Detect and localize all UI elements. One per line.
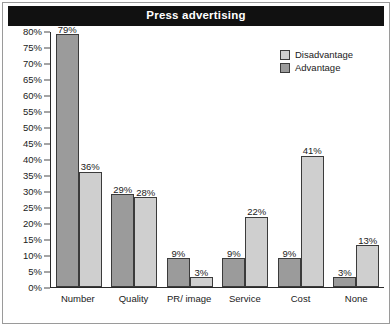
bar-value-label: 28% — [136, 188, 155, 198]
bar: 9% — [278, 258, 301, 287]
y-axis-tick-label: 15% — [23, 235, 42, 245]
legend-swatch-icon — [280, 63, 290, 73]
chart-legend: DisadvantageAdvantage — [280, 50, 353, 73]
bar: 28% — [134, 197, 157, 287]
y-axis-tick-label: 30% — [23, 187, 42, 197]
bar-value-label: 22% — [247, 207, 266, 217]
legend-swatch-icon — [280, 50, 290, 60]
y-axis-tick-label: 60% — [23, 91, 42, 101]
bar-value-label: 9% — [171, 249, 185, 259]
y-axis-tick-label: 35% — [23, 171, 42, 181]
y-axis-tick-label: 20% — [23, 219, 42, 229]
x-axis-label: Cost — [273, 290, 329, 308]
y-axis-tick-label: 55% — [23, 107, 42, 117]
y-axis-tick-label: 65% — [23, 75, 42, 85]
x-axis-label: Quality — [106, 290, 162, 308]
legend-label: Advantage — [295, 63, 340, 73]
bar-value-label: 9% — [282, 249, 296, 259]
y-axis-tick-label: 5% — [28, 267, 42, 277]
bar-value-label: 79% — [58, 25, 77, 35]
x-axis-label: Number — [50, 290, 106, 308]
legend-item[interactable]: Disadvantage — [280, 50, 353, 60]
y-axis-tick-label: 45% — [23, 139, 42, 149]
bar-value-label: 13% — [358, 236, 377, 246]
x-axis-label: PR/ image — [161, 290, 217, 308]
legend-item[interactable]: Advantage — [280, 63, 353, 73]
bar: 3% — [333, 277, 356, 287]
bar-value-label: 3% — [194, 268, 208, 278]
x-axis-label: Service — [217, 290, 273, 308]
bar: 9% — [222, 258, 245, 287]
bar: 29% — [111, 194, 134, 287]
bar: 3% — [190, 277, 213, 287]
press-advertising-chart: Press advertising 80%75%70%65%60%55%50%4… — [0, 0, 392, 326]
y-axis-tick-label: 70% — [23, 59, 42, 69]
bar: 79% — [56, 34, 79, 287]
y-axis-tick-labels: 80%75%70%65%60%55%50%45%40%35%30%25%20%1… — [8, 32, 42, 288]
y-axis-tick-label: 10% — [23, 251, 42, 261]
bar-value-label: 29% — [113, 185, 132, 195]
x-axis-label: None — [328, 290, 384, 308]
bar-group: 79%36% — [51, 32, 107, 287]
bar: 9% — [167, 258, 190, 287]
legend-label: Disadvantage — [295, 50, 353, 60]
y-axis-tick-label: 75% — [23, 43, 42, 53]
x-axis-category-labels: NumberQualityPR/ imageServiceCostNone — [50, 290, 384, 308]
y-axis-tick-label: 80% — [23, 27, 42, 37]
y-axis-tick-label: 40% — [23, 155, 42, 165]
bar: 13% — [356, 245, 379, 287]
bar-group: 9%22% — [218, 32, 274, 287]
y-axis-tick-label: 25% — [23, 203, 42, 213]
bar-value-label: 41% — [303, 146, 322, 156]
bar-group: 29%28% — [107, 32, 163, 287]
plot-wrapper: 80%75%70%65%60%55%50%45%40%35%30%25%20%1… — [8, 32, 384, 318]
bar: 36% — [79, 172, 102, 287]
bar-group: 9%3% — [162, 32, 218, 287]
bar-value-label: 9% — [227, 249, 241, 259]
bar: 22% — [245, 217, 268, 287]
bar-value-label: 3% — [338, 268, 352, 278]
bar: 41% — [301, 156, 324, 287]
y-axis-tick-label: 0% — [28, 283, 42, 293]
y-axis-tick-label: 50% — [23, 123, 42, 133]
bar-value-label: 36% — [81, 162, 100, 172]
chart-title: Press advertising — [146, 10, 245, 22]
